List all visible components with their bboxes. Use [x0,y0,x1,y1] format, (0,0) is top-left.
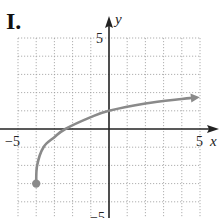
function-curve [36,98,191,184]
function-graph: −5 5 x 5 −5 y [0,0,221,218]
x-axis-label: x [209,133,217,149]
y-axis-label: y [113,11,122,27]
start-point [32,179,40,187]
x-tick-neg5: −5 [5,134,20,149]
y-tick-5: 5 [96,31,103,46]
curve-arrow-icon [190,94,199,103]
x-tick-5: 5 [196,134,203,149]
y-tick-neg5: −5 [90,210,105,218]
